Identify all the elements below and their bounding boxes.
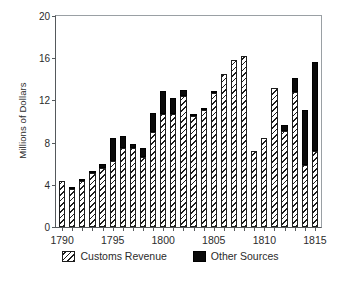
bar-1812	[281, 125, 287, 227]
x-axis-tick-label: 1810	[253, 234, 276, 246]
x-axis-tick	[82, 227, 83, 231]
bar-1790	[59, 181, 65, 227]
x-axis-tick	[133, 227, 134, 231]
bar-segment-customs-revenue	[130, 148, 136, 227]
bar-segment-customs-revenue	[110, 161, 116, 227]
bar-segment-customs-revenue	[281, 131, 287, 227]
bar-segment-customs-revenue	[190, 116, 196, 227]
x-axis-tick	[194, 227, 195, 231]
bar-1813	[292, 78, 298, 227]
x-axis-tick-label: 1795	[101, 234, 124, 246]
x-axis-tick	[123, 227, 124, 231]
bar-segment-customs-revenue	[59, 181, 65, 227]
legend-label-customs-revenue: Customs Revenue	[80, 250, 166, 262]
x-axis-tick	[143, 227, 144, 231]
bar-1804	[201, 109, 207, 227]
bar-segment-other-sources	[211, 91, 217, 93]
x-axis-tick	[163, 227, 164, 231]
bar-segment-customs-revenue	[79, 181, 85, 227]
bar-1810	[261, 138, 267, 227]
y-axis-tick-label: 12	[39, 95, 50, 106]
x-axis-tick	[295, 227, 296, 231]
bar-1801	[170, 98, 176, 227]
x-axis-tick	[113, 227, 114, 231]
bar-segment-customs-revenue	[211, 93, 217, 227]
x-axis-tick	[254, 227, 255, 231]
bar-1802	[180, 90, 186, 227]
bar-1805	[211, 92, 217, 227]
bar-segment-customs-revenue	[99, 168, 105, 227]
bar-1791	[69, 188, 75, 227]
bar-1795	[110, 138, 116, 227]
x-axis-tick	[204, 227, 205, 231]
bar-segment-customs-revenue	[312, 151, 318, 227]
bar-segment-other-sources	[312, 62, 318, 151]
bar-1803	[190, 115, 196, 227]
bar-1811	[271, 88, 277, 227]
y-axis-tick-label: 0	[44, 222, 50, 233]
bar-segment-other-sources	[110, 138, 116, 160]
legend-item-other-sources: Other Sources	[193, 250, 279, 262]
x-axis-tick	[153, 227, 154, 231]
bar-1809	[251, 151, 257, 227]
bar-1806	[221, 74, 227, 227]
bar-segment-customs-revenue	[302, 165, 308, 227]
x-axis-tick	[103, 227, 104, 231]
y-axis-title: Millions of Dollars	[17, 41, 28, 201]
x-axis-tick	[234, 227, 235, 231]
y-axis-tick	[52, 227, 56, 228]
bar-segment-customs-revenue	[180, 96, 186, 227]
bar-segment-other-sources	[79, 179, 85, 181]
bar-1808	[241, 56, 247, 227]
bar-segment-customs-revenue	[170, 114, 176, 227]
bar-segment-customs-revenue	[160, 114, 166, 227]
bar-segment-other-sources	[130, 144, 136, 148]
x-axis-tick	[72, 227, 73, 231]
revenue-bar-chart: Millions of Dollars 04812162017901795180…	[0, 0, 341, 285]
bar-segment-other-sources	[170, 98, 176, 114]
x-axis-tick	[173, 227, 174, 231]
x-axis-tick	[274, 227, 275, 231]
bar-segment-customs-revenue	[150, 132, 156, 227]
bar-segment-customs-revenue	[231, 60, 237, 227]
x-axis-tick	[62, 227, 63, 231]
bar-segment-other-sources	[180, 90, 186, 96]
bar-segment-customs-revenue	[69, 189, 75, 227]
y-axis-tick-label: 20	[39, 11, 50, 22]
plot-area: 048121620179017951800180518101815	[55, 15, 322, 228]
y-axis-tick	[52, 185, 56, 186]
hatched-swatch-icon	[62, 251, 75, 262]
bar-segment-customs-revenue	[251, 151, 257, 227]
bar-segment-customs-revenue	[120, 148, 126, 227]
y-axis-tick	[52, 16, 56, 17]
bar-segment-other-sources	[292, 78, 298, 92]
y-axis-tick-label: 8	[44, 137, 50, 148]
x-axis-tick	[264, 227, 265, 231]
bar-1799	[150, 113, 156, 227]
y-axis-tick-label: 4	[44, 179, 50, 190]
x-axis-tick-label: 1800	[152, 234, 175, 246]
bar-1792	[79, 180, 85, 227]
bar-1815	[312, 62, 318, 227]
y-axis-tick-label: 16	[39, 53, 50, 64]
bar-segment-customs-revenue	[201, 110, 207, 227]
y-axis-tick	[52, 58, 56, 59]
bar-segment-other-sources	[160, 91, 166, 114]
bar-segment-other-sources	[302, 110, 308, 165]
bar-1794	[99, 164, 105, 227]
bar-segment-customs-revenue	[140, 157, 146, 227]
x-axis-tick	[183, 227, 184, 231]
bar-segment-other-sources	[69, 187, 75, 189]
bar-segment-customs-revenue	[271, 88, 277, 227]
bar-group	[56, 16, 321, 227]
x-axis-tick	[305, 227, 306, 231]
x-axis-tick	[285, 227, 286, 231]
bar-1798	[140, 148, 146, 227]
x-axis-tick	[214, 227, 215, 231]
bar-1796	[120, 136, 126, 227]
bar-segment-other-sources	[201, 108, 207, 110]
bar-segment-customs-revenue	[89, 173, 95, 227]
x-axis-tick-label: 1790	[50, 234, 73, 246]
x-axis-tick	[92, 227, 93, 231]
x-axis-tick	[224, 227, 225, 231]
